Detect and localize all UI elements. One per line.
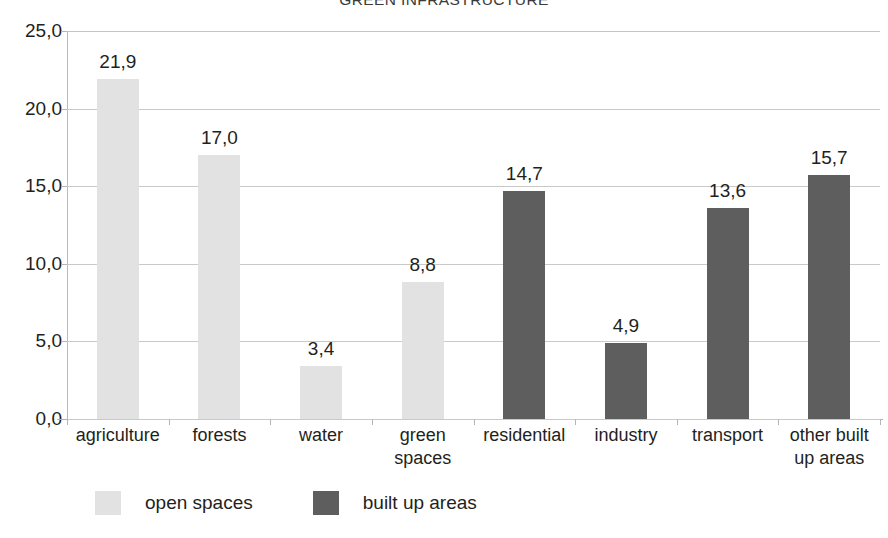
bar-slot: 14,7 [474, 31, 576, 419]
legend-label: built up areas [363, 492, 477, 514]
plot-area: 21,917,03,48,814,74,913,615,7 [67, 31, 880, 419]
bar[interactable] [300, 366, 342, 419]
x-axis-label-line: green [372, 424, 474, 447]
bar-value-label: 4,9 [613, 315, 639, 337]
x-axis-tick-mark [778, 419, 779, 425]
y-axis-tick-label: 20,0 [6, 98, 62, 120]
chart-legend: open spacesbuilt up areas [95, 491, 477, 515]
x-axis-tick-mark [575, 419, 576, 425]
legend-label: open spaces [145, 492, 253, 514]
x-axis-category-labels: agricultureforestswatergreenspacesreside… [67, 424, 880, 484]
bar-value-label: 14,7 [506, 163, 543, 185]
chart-title: GREEN INFRASTRUCTURE [0, 0, 888, 9]
x-axis-label-line: industry [575, 424, 677, 447]
bar[interactable] [503, 191, 545, 419]
x-axis-tick-mark [372, 419, 373, 425]
x-axis-label-line: agriculture [67, 424, 169, 447]
bar-slot: 3,4 [270, 31, 372, 419]
bar[interactable] [97, 79, 139, 419]
x-axis-category-label: agriculture [67, 424, 169, 447]
legend-swatch [95, 491, 121, 515]
bar-value-label: 21,9 [99, 51, 136, 73]
bar-value-label: 3,4 [308, 338, 334, 360]
bar-value-label: 8,8 [409, 254, 435, 276]
bar[interactable] [808, 175, 850, 419]
x-axis-label-line: forests [169, 424, 271, 447]
x-axis-category-label: water [270, 424, 372, 447]
bar-slot: 15,7 [778, 31, 880, 419]
x-axis-label-line: residential [474, 424, 576, 447]
x-axis-category-label: other builtup areas [778, 424, 880, 470]
x-axis-category-label: industry [575, 424, 677, 447]
x-axis-category-label: residential [474, 424, 576, 447]
bar-slot: 21,9 [67, 31, 169, 419]
x-axis-tick-mark [880, 419, 881, 425]
x-axis-label-line: up areas [778, 447, 880, 470]
x-axis-tick-mark [67, 419, 68, 425]
x-axis-category-label: greenspaces [372, 424, 474, 470]
bar-chart: GREEN INFRASTRUCTURE 0,05,010,015,020,02… [0, 0, 888, 538]
bar-value-label: 17,0 [201, 127, 238, 149]
y-axis-tick-label: 5,0 [6, 330, 62, 352]
y-axis-tick-label: 25,0 [6, 20, 62, 42]
x-axis-category-label: transport [677, 424, 779, 447]
bar-slot: 13,6 [677, 31, 779, 419]
legend-item[interactable]: open spaces [95, 491, 253, 515]
x-axis-tick-mark [270, 419, 271, 425]
x-axis-tick-mark [169, 419, 170, 425]
y-axis-tick-label: 10,0 [6, 253, 62, 275]
x-axis-tick-mark [474, 419, 475, 425]
bar-slot: 4,9 [575, 31, 677, 419]
bar[interactable] [402, 282, 444, 419]
x-axis-label-line: spaces [372, 447, 474, 470]
x-axis-tick-mark [677, 419, 678, 425]
y-axis-tick-label: 15,0 [6, 175, 62, 197]
legend-swatch [313, 491, 339, 515]
bar-slot: 8,8 [372, 31, 474, 419]
bar[interactable] [605, 343, 647, 419]
y-axis-tick-labels: 0,05,010,015,020,025,0 [0, 0, 62, 538]
bar-value-label: 15,7 [811, 147, 848, 169]
y-axis-tick-label: 0,0 [6, 408, 62, 430]
x-axis-label-line: other built [778, 424, 880, 447]
bar[interactable] [198, 155, 240, 419]
x-axis-category-label: forests [169, 424, 271, 447]
bar[interactable] [707, 208, 749, 419]
bar-slot: 17,0 [169, 31, 271, 419]
x-axis-label-line: water [270, 424, 372, 447]
bar-value-label: 13,6 [709, 180, 746, 202]
x-axis-label-line: transport [677, 424, 779, 447]
legend-item[interactable]: built up areas [313, 491, 477, 515]
